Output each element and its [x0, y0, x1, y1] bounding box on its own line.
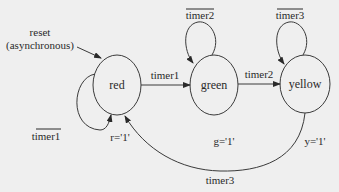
reset-arrow [77, 47, 101, 58]
yellow-output: y='1' [304, 135, 325, 147]
yellow-to-red-label: timer3 [206, 174, 235, 186]
yellow-self-loop-label: timer3 [276, 9, 305, 21]
red-to-green-label: timer1 [151, 69, 180, 81]
state-yellow-label: yellow [289, 77, 322, 91]
red-self-loop-label: timer1 [32, 130, 61, 142]
green-to-yellow-label: timer2 [245, 68, 274, 80]
reset-async-label: (asynchronous) [6, 39, 74, 52]
state-green: green [190, 55, 238, 115]
red-output: r='1' [110, 131, 129, 143]
yellow-self-loop [277, 22, 307, 64]
green-output: g='1' [213, 135, 234, 147]
green-self-loop [186, 22, 216, 63]
green-self-loop-label: timer2 [186, 9, 215, 21]
state-yellow: yellow [280, 55, 330, 113]
reset-label: reset [30, 26, 51, 38]
state-red-label: red [109, 78, 124, 92]
state-green-label: green [201, 78, 228, 92]
state-red: red [93, 55, 141, 115]
state-diagram: reset (asynchronous) red green yellow ti… [0, 0, 339, 192]
red-self-loop [77, 74, 111, 130]
